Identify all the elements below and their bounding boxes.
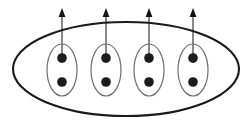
pair-dot-1-1 <box>57 53 67 63</box>
arrow-head-2 <box>103 8 110 17</box>
pair-dot-4-2 <box>188 77 198 87</box>
pair-dot-3-2 <box>144 77 154 87</box>
pair-layer <box>47 44 208 96</box>
figure-canvas <box>0 0 251 125</box>
pair-dot-4-1 <box>188 53 198 63</box>
arrow-layer <box>59 8 197 63</box>
pair-dot-3-1 <box>144 53 154 63</box>
arrow-head-1 <box>59 8 66 17</box>
pair-dot-1-2 <box>57 77 67 87</box>
diagram-svg <box>0 0 251 125</box>
arrow-head-3 <box>146 8 153 17</box>
arrow-head-4 <box>190 8 197 17</box>
pair-dot-2-2 <box>101 77 111 87</box>
pair-dot-2-1 <box>101 53 111 63</box>
